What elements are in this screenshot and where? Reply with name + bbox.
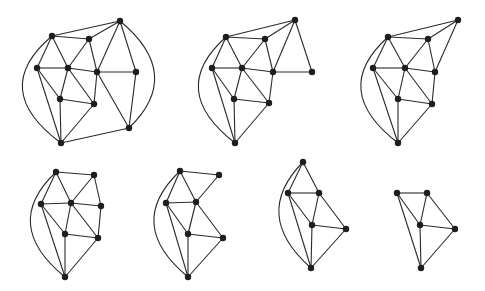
vertex-K bbox=[58, 140, 64, 146]
graph-g7 bbox=[394, 190, 458, 271]
edge-H-I bbox=[65, 234, 98, 238]
edge-G-J bbox=[129, 72, 136, 128]
graph-g6 bbox=[279, 159, 349, 271]
vertex-D bbox=[394, 190, 400, 196]
edge-B-C bbox=[388, 37, 428, 39]
edge-E-H bbox=[188, 202, 196, 234]
edge-B-A bbox=[226, 20, 295, 37]
vertex-K bbox=[395, 140, 401, 146]
edge-E-F bbox=[71, 203, 101, 206]
vertex-B bbox=[300, 159, 306, 165]
vertex-F bbox=[94, 69, 100, 75]
vertex-F bbox=[270, 69, 276, 75]
edge-F-I bbox=[98, 206, 101, 238]
vertex-D bbox=[209, 65, 215, 71]
edge-H-I bbox=[420, 225, 455, 229]
edge-I-K bbox=[311, 229, 346, 268]
vertex-I bbox=[95, 235, 101, 241]
edge-A-G bbox=[295, 20, 312, 72]
edge-B-E bbox=[303, 162, 319, 193]
vertex-C bbox=[216, 172, 222, 178]
edge-D-H bbox=[288, 193, 312, 225]
edge-D-K bbox=[212, 68, 235, 143]
vertex-D bbox=[285, 190, 291, 196]
vertex-J bbox=[126, 125, 132, 131]
edge-H-I bbox=[234, 99, 269, 103]
vertex-K bbox=[185, 274, 191, 280]
vertex-E bbox=[316, 190, 322, 196]
edge-E-I bbox=[196, 202, 223, 238]
vertex-H bbox=[417, 222, 423, 228]
edge-F-I bbox=[269, 72, 273, 103]
vertex-I bbox=[429, 101, 435, 107]
graph-g4 bbox=[30, 169, 104, 280]
vertex-I bbox=[220, 235, 226, 241]
edge-C-E bbox=[68, 39, 89, 68]
vertex-C bbox=[262, 36, 268, 42]
edge-C-E bbox=[405, 39, 428, 68]
edge-D-H bbox=[166, 203, 188, 234]
arc-B-K bbox=[22, 36, 61, 143]
edge-I-K bbox=[65, 238, 98, 277]
edge-B-E bbox=[388, 37, 405, 68]
edge-B-C bbox=[52, 36, 89, 39]
vertex-K bbox=[418, 265, 424, 271]
edge-E-I bbox=[242, 68, 269, 103]
vertex-I bbox=[343, 226, 349, 232]
edge-E-I bbox=[405, 68, 432, 104]
edge-B-D bbox=[166, 171, 180, 203]
edge-B-C bbox=[180, 171, 219, 175]
vertex-K bbox=[232, 140, 238, 146]
graph-g5 bbox=[154, 168, 226, 280]
edge-D-H bbox=[397, 193, 420, 225]
vertex-F bbox=[98, 203, 104, 209]
edge-E-H bbox=[398, 68, 405, 99]
edge-I-K bbox=[235, 103, 269, 143]
edge-H-K bbox=[234, 99, 235, 143]
edge-B-D bbox=[41, 172, 56, 204]
vertex-C bbox=[425, 36, 431, 42]
vertex-H bbox=[309, 222, 315, 228]
edge-B-D bbox=[373, 37, 388, 68]
edge-D-H bbox=[37, 68, 60, 99]
edge-E-H bbox=[312, 193, 319, 225]
edge-E-F bbox=[405, 68, 435, 72]
edge-C-E bbox=[196, 175, 219, 202]
edge-I-K bbox=[398, 104, 432, 143]
edge-B-C bbox=[226, 37, 265, 39]
edge-E-I bbox=[427, 193, 455, 229]
edge-I-K bbox=[188, 238, 223, 277]
edge-F-I bbox=[94, 72, 97, 104]
vertex-D bbox=[38, 201, 44, 207]
vertex-A bbox=[455, 17, 461, 23]
edge-C-F bbox=[265, 39, 273, 72]
vertex-H bbox=[57, 96, 63, 102]
graph-sequence-diagram bbox=[0, 0, 485, 291]
edge-C-E bbox=[71, 175, 94, 203]
edge-F-I bbox=[432, 72, 435, 104]
vertex-C bbox=[86, 36, 92, 42]
edge-B-A bbox=[52, 21, 120, 36]
edge-E-F bbox=[68, 68, 97, 72]
edge-B-E bbox=[52, 36, 68, 68]
edge-H-K bbox=[311, 225, 312, 268]
vertex-B bbox=[177, 168, 183, 174]
vertex-G bbox=[133, 69, 139, 75]
edge-I-K bbox=[421, 229, 455, 268]
edge-B-A bbox=[388, 20, 458, 37]
edge-C-F bbox=[428, 39, 435, 72]
vertex-B bbox=[49, 33, 55, 39]
edge-H-I bbox=[312, 225, 346, 229]
edge-B-D bbox=[212, 37, 226, 68]
vertex-B bbox=[53, 169, 59, 175]
edge-D-H bbox=[41, 204, 65, 234]
edge-D-E bbox=[41, 203, 71, 204]
edge-C-E bbox=[242, 39, 265, 68]
graph-g1 bbox=[22, 18, 154, 146]
edge-D-K bbox=[37, 68, 61, 143]
vertex-K bbox=[62, 274, 68, 280]
edge-C-F bbox=[89, 39, 97, 72]
vertex-D bbox=[163, 200, 169, 206]
vertex-D bbox=[34, 65, 40, 71]
vertex-H bbox=[62, 231, 68, 237]
